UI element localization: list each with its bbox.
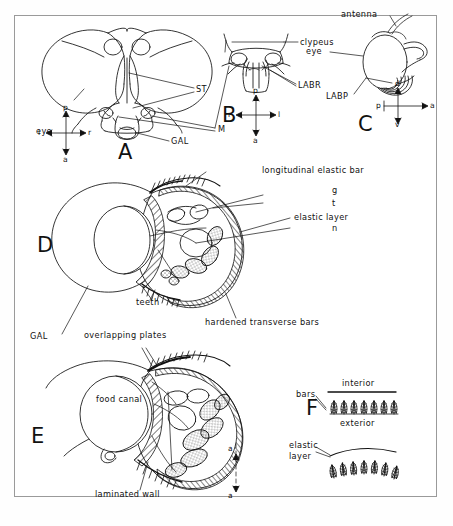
label-antenna: antenna (341, 9, 377, 19)
panel-letter-f: F (306, 396, 318, 420)
label-gal-d: GAL (30, 331, 48, 341)
axis-c-d: d (395, 79, 400, 88)
panel-letter-e: E (31, 424, 44, 448)
panel-letter-c: C (358, 112, 373, 136)
label-longitudinal-elastic-bar: longitudinal elastic bar (262, 165, 364, 175)
label-t: t (332, 198, 336, 208)
label-elastic-layer-d: elastic layer (294, 212, 348, 222)
panel-a-orientation-cross (46, 111, 86, 155)
axis-b-a: a (253, 136, 258, 145)
axis-b-p: p (253, 86, 258, 95)
panel-letter-d: D (37, 233, 53, 257)
axis-a-l: l (38, 128, 40, 137)
label-laminated-wall: laminated wall (95, 489, 160, 499)
label-eye-c: eye (306, 46, 322, 56)
label-exterior: exterior (340, 418, 375, 428)
axis-b-l: l (278, 110, 280, 119)
label-hardened-transverse-bars: hardened transverse bars (205, 317, 319, 327)
axis-a-r: r (88, 128, 91, 137)
label-overlapping-plates: overlapping plates (84, 330, 167, 340)
label-section-a-top: a (228, 444, 233, 453)
axis-b-r: r (228, 110, 231, 119)
label-labr: LABR (298, 80, 321, 90)
panel-b-orientation-cross (236, 95, 276, 136)
label-elastic-layer-f-line2: layer (289, 451, 311, 461)
label-elastic-layer-f-line1: elastic (289, 440, 318, 450)
figure-artwork (0, 0, 453, 526)
figure-plate: eye ST M GAL A p l r a clypeus LABR B p … (0, 0, 453, 526)
panel-a-artwork (42, 28, 215, 141)
panel-f-artwork (316, 392, 400, 480)
panel-e-artwork (46, 348, 243, 492)
label-labp: LABP (326, 91, 348, 101)
label-st: ST (196, 84, 207, 94)
axis-c-a: a (430, 101, 435, 110)
axis-c-v: v (395, 120, 400, 129)
axis-c-p: p (376, 101, 381, 110)
axis-a-p: p (63, 103, 68, 112)
label-interior: interior (342, 378, 375, 388)
panel-d-artwork (52, 172, 290, 334)
label-food-canal-line1: food canal (96, 394, 142, 404)
label-g: g (332, 185, 338, 195)
panel-c-artwork (330, 14, 427, 95)
panel-letter-a: A (118, 140, 132, 164)
label-gal-a: GAL (171, 136, 189, 146)
axis-a-a: a (63, 155, 68, 164)
label-teeth: teeth (136, 297, 159, 307)
label-section-a-bottom: a (228, 491, 233, 500)
label-n: n (332, 223, 338, 233)
